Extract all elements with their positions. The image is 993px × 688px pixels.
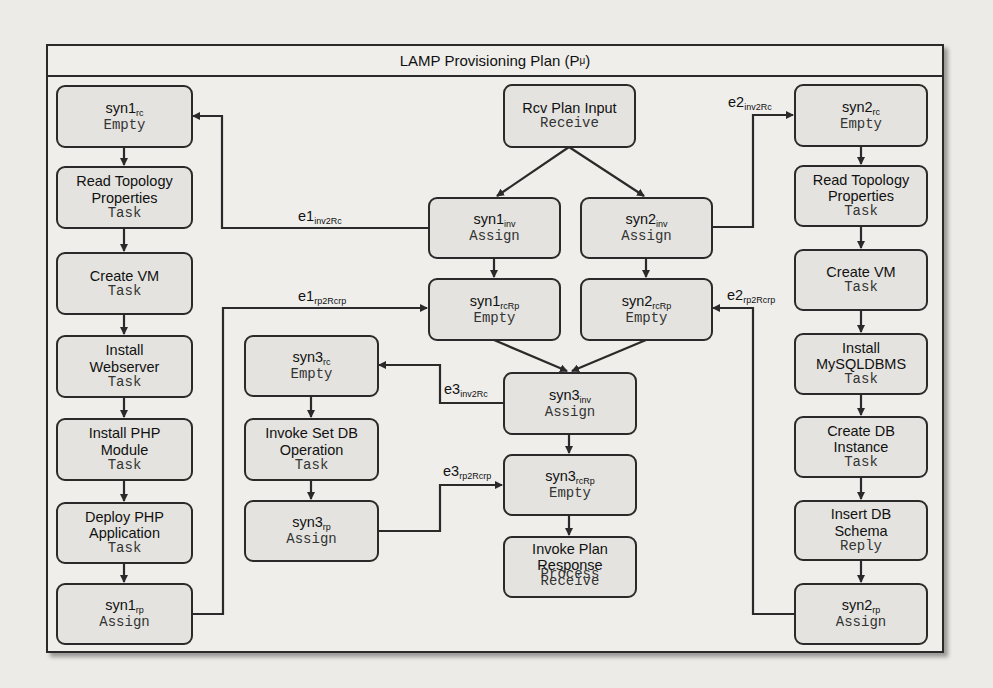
node-kind: Assign xyxy=(545,405,595,421)
node-syn3-inv[interactable]: syn3inv Assign xyxy=(503,372,637,435)
edge-syn1rcrp-syn3inv xyxy=(494,340,567,371)
node-create-vm-1[interactable]: Create VM Task xyxy=(56,252,193,315)
node-kind: Empty xyxy=(290,367,332,383)
edge-label-sub: rp2Rcrp xyxy=(459,471,491,481)
edge-rcv-syn2inv xyxy=(569,147,644,196)
node-install-mysql-dbms[interactable]: Install MySQLDBMS Task xyxy=(794,333,928,395)
node-syn3-rp[interactable]: syn3rp Assign xyxy=(244,500,379,562)
node-name: Rcv Plan Input xyxy=(522,100,616,116)
node-name: Deploy PHP Application xyxy=(58,509,191,541)
node-syn2-rcrp[interactable]: syn2rcRp Empty xyxy=(580,278,713,341)
node-kind: Empty xyxy=(625,311,667,327)
node-kind: Empty xyxy=(473,311,515,327)
node-name-text: syn2 xyxy=(625,211,656,227)
edge-label-text: e3 xyxy=(443,463,459,479)
node-kind: Task xyxy=(108,375,142,391)
node-name: Insert DB Schema xyxy=(796,506,926,538)
node-invoke-plan-response[interactable]: Invoke Plan Response Process Receive xyxy=(503,536,637,598)
edge-label-e3-inv2rc: e3inv2Rc xyxy=(444,381,488,399)
edge-e2-inv2rc xyxy=(712,115,793,227)
node-read-topology-1[interactable]: Read Topology Properties Task xyxy=(56,166,193,229)
node-syn2-rp[interactable]: syn2rp Assign xyxy=(794,583,928,645)
edge-label-e1-rp2rcrp: e1rp2Rcrp xyxy=(298,288,346,306)
node-name: syn1inv xyxy=(473,211,515,229)
node-name: Install Webserver xyxy=(58,342,191,374)
node-syn1-inv[interactable]: syn1inv Assign xyxy=(428,197,561,259)
node-insert-db-schema[interactable]: Insert DB Schema Reply xyxy=(794,500,928,561)
node-name: Create DB Instance xyxy=(796,423,926,455)
node-syn1-rcrp[interactable]: syn1rcRp Empty xyxy=(428,278,561,341)
node-kind: Assign xyxy=(469,229,519,245)
node-kind: Reply xyxy=(840,539,882,555)
edge-e3-rp2rcrp xyxy=(378,485,502,531)
node-syn1-rp[interactable]: syn1rp Assign xyxy=(56,583,193,645)
node-name-text: syn1 xyxy=(473,211,504,227)
node-name-text: syn2 xyxy=(622,293,653,309)
node-kind: Empty xyxy=(103,118,145,134)
node-name: syn3rp xyxy=(292,514,331,532)
node-invoke-set-db-operation[interactable]: Invoke Set DB Operation Task xyxy=(244,418,379,481)
node-name: syn2rp xyxy=(842,597,881,615)
node-syn2-rc[interactable]: syn2rc Empty xyxy=(794,84,928,147)
node-name-text: syn1 xyxy=(105,597,136,613)
node-name: syn3rc xyxy=(292,349,330,367)
node-kind: Task xyxy=(108,284,142,300)
node-kind-overlap: Receive xyxy=(541,574,600,590)
node-name-text: syn1 xyxy=(470,293,501,309)
node-name-text: syn3 xyxy=(545,468,576,484)
edge-label-e1-inv2rc: e1inv2Rc xyxy=(298,208,342,226)
edge-label-sub: inv2Rc xyxy=(744,102,772,112)
edge-label-text: e1 xyxy=(298,288,314,304)
edge-label-sub: rp2Rcrp xyxy=(314,296,346,306)
node-name: Read Topology Properties xyxy=(796,172,926,204)
node-name-text: syn3 xyxy=(292,514,323,530)
node-create-db-instance[interactable]: Create DB Instance Task xyxy=(794,416,928,478)
node-install-php-module[interactable]: Install PHP Module Task xyxy=(56,418,193,481)
node-kind: Task xyxy=(108,206,142,222)
node-name-text: syn2 xyxy=(842,99,873,115)
node-name: syn3inv xyxy=(549,387,591,405)
edge-label-text: e2 xyxy=(728,94,744,110)
edge-label-sub: rp2Rcrp xyxy=(743,295,775,305)
node-kind: Task xyxy=(108,458,142,474)
node-kind: Task xyxy=(844,280,878,296)
edge-label-sub: inv2Rc xyxy=(460,389,488,399)
edge-label-text: e2 xyxy=(727,287,743,303)
edge-label-e2-rp2rcrp: e2rp2Rcrp xyxy=(727,287,775,305)
node-syn1-rc[interactable]: syn1rc Empty xyxy=(56,85,193,148)
node-name: syn1rc xyxy=(105,100,143,118)
node-kind: Empty xyxy=(549,486,591,502)
node-name: Create VM xyxy=(90,268,159,284)
node-kind: Task xyxy=(295,458,329,474)
node-syn3-rcrp[interactable]: syn3rcRp Empty xyxy=(503,454,637,516)
node-kind: Assign xyxy=(836,615,886,631)
node-create-vm-2[interactable]: Create VM Task xyxy=(794,249,928,311)
node-rcv-plan-input[interactable]: Rcv Plan Input Receive xyxy=(503,84,636,148)
edge-label-text: e1 xyxy=(298,208,314,224)
node-kind: Task xyxy=(108,541,142,557)
node-deploy-php-app[interactable]: Deploy PHP Application Task xyxy=(56,502,193,564)
node-name: Install PHP Module xyxy=(58,425,191,457)
edge-syn2rcrp-syn3inv xyxy=(572,340,646,371)
node-syn3-rc[interactable]: syn3rc Empty xyxy=(244,335,379,397)
node-name: syn1rp xyxy=(105,597,144,615)
node-kind: Task xyxy=(844,455,878,471)
edge-label-text: e3 xyxy=(444,381,460,397)
node-name: syn2inv xyxy=(625,211,667,229)
node-kind: Assign xyxy=(621,229,671,245)
node-name: Read Topology Properties xyxy=(58,173,191,205)
node-name: Create VM xyxy=(826,264,895,280)
node-name-text: syn2 xyxy=(842,597,873,613)
node-name-text: syn1 xyxy=(105,100,136,116)
edge-label-e3-rp2rcrp: e3rp2Rcrp xyxy=(443,463,491,481)
node-syn2-inv[interactable]: syn2inv Assign xyxy=(580,197,713,259)
node-name: Invoke Set DB Operation xyxy=(246,425,377,457)
node-name: syn1rcRp xyxy=(470,293,520,311)
node-name: syn2rc xyxy=(842,99,880,117)
node-install-webserver[interactable]: Install Webserver Task xyxy=(56,335,193,398)
node-read-topology-2[interactable]: Read Topology Properties Task xyxy=(794,165,928,227)
node-name-text: syn3 xyxy=(549,387,580,403)
node-kind: Assign xyxy=(99,615,149,631)
node-kind: Assign xyxy=(286,532,336,548)
edge-e2-rp2rcrp xyxy=(713,308,794,614)
